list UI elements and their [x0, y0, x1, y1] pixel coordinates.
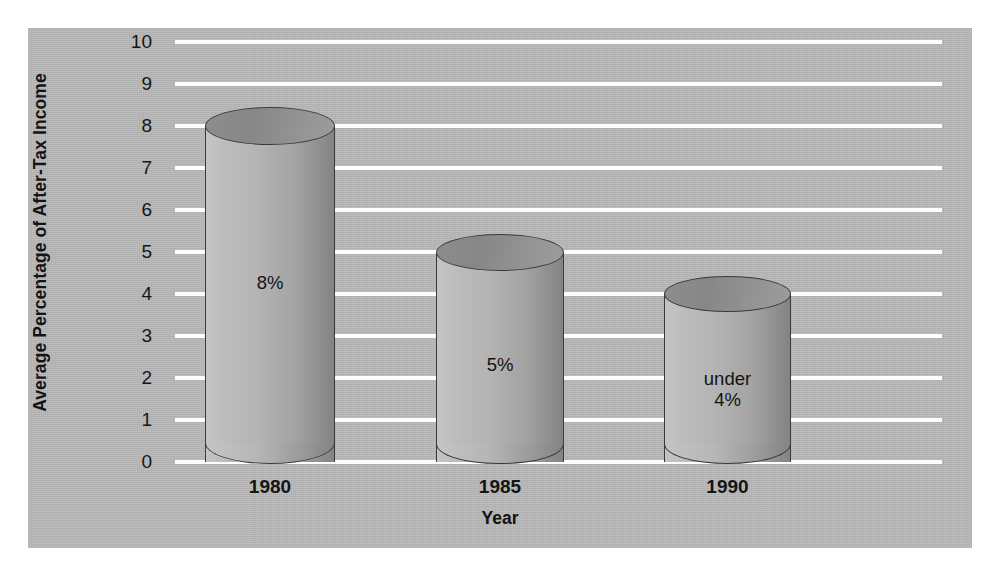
gridline: [175, 40, 942, 44]
bar-cylinder: 8%: [205, 107, 335, 464]
y-axis-title: Average Percentage of After-Tax Income: [30, 33, 51, 453]
bar-cylinder: under4%: [664, 276, 791, 464]
y-tick-label: 7: [112, 158, 152, 177]
bar-body: [205, 126, 335, 462]
bar-top-ellipse: [205, 107, 335, 145]
gridline: [175, 82, 942, 86]
bar-value-label: 8%: [205, 272, 335, 293]
bar-value-label: 5%: [436, 354, 564, 375]
y-tick-label: 10: [112, 32, 152, 51]
y-tick-label: 8: [112, 116, 152, 135]
bar-value-line: 4%: [664, 389, 791, 410]
y-tick-label: 4: [112, 284, 152, 303]
y-tick-label: 9: [112, 74, 152, 93]
x-tick-label: 1985: [436, 476, 564, 498]
bar-value-label: under4%: [664, 368, 791, 411]
y-tick-label: 1: [112, 410, 152, 429]
x-axis-title: Year: [28, 508, 972, 529]
y-tick-label: 5: [112, 242, 152, 261]
bar-top-ellipse: [436, 234, 564, 271]
y-tick-label: 0: [112, 452, 152, 471]
bar-value-line: 8%: [205, 272, 335, 293]
x-tick-label: 1990: [664, 476, 791, 498]
bar-value-line: under: [664, 368, 791, 389]
y-tick-label: 3: [112, 326, 152, 345]
y-tick-label: 2: [112, 368, 152, 387]
bar-top-ellipse: [664, 276, 791, 312]
bar-value-line: 5%: [436, 354, 564, 375]
y-tick-label: 6: [112, 200, 152, 219]
chart-figure: Average Percentage of After-Tax Income 1…: [0, 0, 999, 576]
bar-cylinder: 5%: [436, 234, 564, 465]
x-tick-label: 1980: [205, 476, 335, 498]
